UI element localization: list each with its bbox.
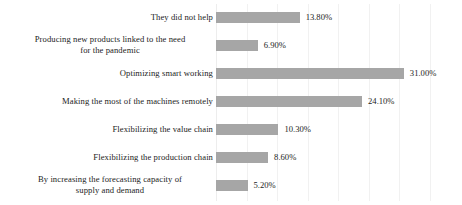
bar-value-label: 10.30%	[284, 124, 311, 134]
bar-value-label: 31.00%	[410, 68, 437, 78]
category-label: Optimizing smart working	[7, 59, 213, 87]
bar-and-value: 13.80%	[216, 3, 332, 31]
bar-value-label: 24.10%	[368, 96, 395, 106]
bar-value-label: 6.90%	[264, 40, 286, 50]
bar-row: They did not help13.80%	[0, 3, 462, 31]
bar	[216, 12, 300, 23]
bar	[216, 152, 268, 163]
bar-row: Flexibilizing the value chain10.30%	[0, 115, 462, 143]
bar-row: Producing new products linked to the nee…	[0, 31, 462, 59]
bar-and-value: 5.20%	[216, 171, 276, 199]
category-label: Making the most of the machines remotely	[7, 87, 213, 115]
bar-row: By increasing the forecasting capacity o…	[0, 171, 462, 199]
bar-row: Optimizing smart working31.00%	[0, 59, 462, 87]
bar-row: Flexibilizing the production chain8.60%	[0, 143, 462, 171]
bar-rows-container: They did not help13.80%Producing new pro…	[0, 0, 462, 205]
category-label: Producing new products linked to the nee…	[7, 31, 213, 59]
category-label-line: Producing new products linked to the nee…	[7, 34, 213, 45]
category-label: Flexibilizing the value chain	[7, 115, 213, 143]
bar-value-label: 5.20%	[254, 180, 276, 190]
category-label: By increasing the forecasting capacity o…	[7, 171, 213, 199]
bar	[216, 124, 278, 135]
bar	[216, 68, 404, 79]
category-label-line: supply and demand	[7, 185, 213, 196]
bar-value-label: 13.80%	[306, 12, 333, 22]
category-label-line: By increasing the forecasting capacity o…	[7, 174, 213, 185]
bar	[216, 40, 258, 51]
category-label: Flexibilizing the production chain	[7, 143, 213, 171]
bar-row: Making the most of the machines remotely…	[0, 87, 462, 115]
bar	[216, 180, 248, 191]
bar-and-value: 31.00%	[216, 59, 436, 87]
bar-value-label: 8.60%	[274, 152, 296, 162]
category-label-line: for the pandemic	[7, 45, 213, 56]
bar-and-value: 24.10%	[216, 87, 395, 115]
bar	[216, 96, 362, 107]
horizontal-bar-chart: They did not help13.80%Producing new pro…	[0, 0, 462, 205]
bar-and-value: 6.90%	[216, 31, 286, 59]
bar-and-value: 8.60%	[216, 143, 296, 171]
bar-and-value: 10.30%	[216, 115, 311, 143]
category-label: They did not help	[7, 3, 213, 31]
